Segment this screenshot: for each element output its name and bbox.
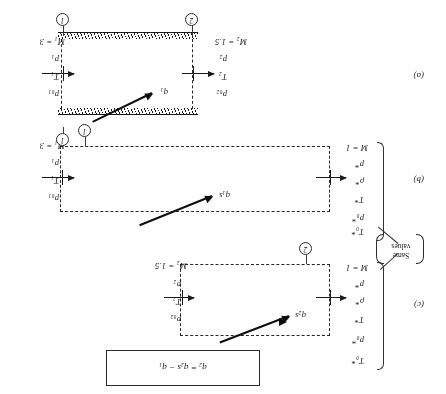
panel-c-outlet-prop-p0-star: p₀* — [352, 336, 364, 346]
panel-a-tag: (a) — [414, 71, 425, 81]
panel-c-outlet-prop-t0-star: T₀* — [351, 356, 364, 366]
panel-b-inlet-prop-p1: p₁ — [51, 159, 59, 169]
panel-c-station-line — [306, 255, 307, 264]
equation-text: q₂ = q₂s − q₁ — [159, 363, 207, 373]
panel-c-station-marker: 2 — [299, 242, 312, 255]
panel-a-station-1-top-marker: 1 — [56, 133, 69, 146]
same-values-text: Same values — [382, 242, 420, 259]
panel-b-outlet-tick — [330, 170, 331, 185]
panel-c-inlet-mach: M₂ = 1.5 — [155, 261, 187, 271]
panel-c-inlet-prop-p2: p₂ — [173, 280, 181, 290]
panel-a-inlet-prop-p01: p₀₁ — [48, 90, 59, 100]
panel-c-outlet-prop-t-star: T* — [355, 315, 364, 325]
panel-c-inlet-prop-t2: T₂ — [173, 297, 181, 307]
panel-a-station-1-line — [63, 26, 64, 36]
panel-a-outlet-prop-t2: T₂ — [219, 72, 227, 82]
panel-c-outlet-prop-rho-star: ρ* — [355, 297, 364, 307]
panel-c-control-volume — [180, 264, 330, 336]
panel-a-station-planes — [61, 39, 193, 109]
panel-b-outlet-flow-arrow — [316, 177, 346, 178]
same-values-line-2: values — [382, 242, 420, 251]
panel-a-inlet-tick — [63, 66, 64, 81]
panel-c-tag: (c) — [414, 300, 424, 310]
panel-b-outlet-prop-p-star: p* — [355, 160, 364, 170]
panel-b-station-marker: 1 — [78, 124, 91, 137]
panel-b-outlet-prop-t0-star: T₀* — [351, 227, 364, 237]
equation-box: q₂ = q₂s − q₁ — [106, 350, 260, 386]
panel-c-outlet-tick — [330, 290, 331, 305]
panel-b-tag: (b) — [414, 175, 425, 185]
panel-a-outlet-prop-p2: p₂ — [219, 55, 227, 65]
figure-canvas: M₂ = 1.5 p₂ T₂ p₀₂ 2 q₂s M = 1 p* ρ* T* … — [0, 0, 446, 394]
same-values-line-1: Same — [382, 251, 420, 260]
panel-a-station-2-marker: 2 — [185, 13, 198, 26]
panel-b-inlet-tick — [62, 170, 63, 185]
panel-a-outlet-prop-p02: p₀₂ — [216, 90, 227, 100]
panel-a-lower-wall — [58, 32, 198, 39]
panel-c-inlet-tick — [182, 290, 183, 305]
panel-a-station-1-marker: 1 — [56, 13, 69, 26]
panel-b-inlet-prop-t1: T₁ — [51, 176, 59, 186]
panel-a-outlet-flow-arrow — [182, 73, 214, 74]
panel-a-upper-wall — [58, 108, 198, 115]
panel-c-outlet-mach: M = 1 — [346, 263, 368, 273]
panel-c-heat-label: q₂s — [295, 311, 306, 321]
panel-c-inlet-prop-p02: p₀₂ — [170, 315, 181, 325]
panel-c-outlet-prop-p-star: p* — [355, 280, 364, 290]
panel-b-heat-label: q₁s — [219, 191, 230, 201]
panel-a-inlet-prop-t1: T₁ — [51, 72, 59, 82]
panel-b-outlet-prop-p0-star: p₀* — [352, 214, 364, 224]
panel-b-outlet-prop-rho-star: ρ* — [355, 177, 364, 187]
panel-b-outlet-prop-t-star: T* — [355, 195, 364, 205]
panel-b-inlet-prop-p01: p₀₁ — [48, 194, 59, 204]
panel-c-star-group-bar — [377, 262, 384, 370]
panel-a-outlet-mach: M₂ = 1.5 — [215, 37, 247, 47]
panel-b-station-line — [85, 137, 86, 146]
panel-c-outlet-flow-arrow — [316, 297, 346, 298]
panel-a-inlet-prop-p1: p₁ — [51, 55, 59, 65]
panel-a-inlet-mach: M₁ = 3 — [40, 37, 65, 47]
panel-a-outlet-tick — [193, 66, 194, 81]
panel-b-outlet-mach: M = 1 — [346, 143, 368, 153]
panel-a-station-2-line — [192, 26, 193, 36]
panel-a-heat-label: q₁ — [160, 88, 168, 98]
